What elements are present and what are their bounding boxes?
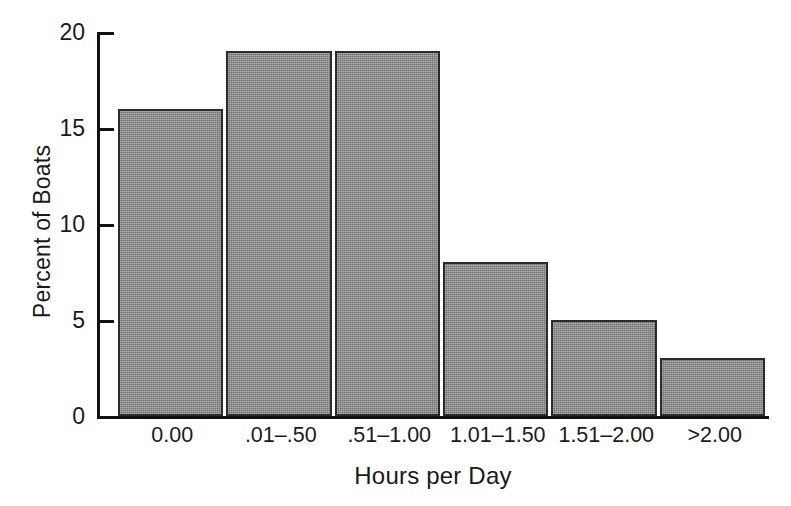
x-tick-label-2: .51–1.00 xyxy=(335,424,444,448)
y-tick-mark xyxy=(97,224,114,227)
y-tick-label: 10 xyxy=(59,213,85,236)
y-tick-label: 0 xyxy=(72,405,85,428)
y-tick-label: 15 xyxy=(59,117,85,140)
bar-2 xyxy=(335,51,440,416)
x-axis-line xyxy=(97,416,769,419)
bar-4 xyxy=(551,320,656,416)
y-tick-label: 5 xyxy=(72,309,85,332)
x-tick-label-1: .01–.50 xyxy=(227,424,336,448)
plot-area: 20 15 10 5 0 xyxy=(97,32,769,416)
bar-1 xyxy=(226,51,331,416)
bar-3 xyxy=(443,262,548,416)
y-tick-label: 20 xyxy=(59,21,85,44)
y-tick-mark xyxy=(97,128,114,131)
bar-chart: Percent of Boats 20 15 10 5 0 xyxy=(0,0,791,506)
y-tick-mark xyxy=(97,32,114,35)
x-tick-label-3: 1.01–1.50 xyxy=(444,424,553,448)
y-axis-title: Percent of Boats xyxy=(29,82,56,382)
x-tick-label-0: 0.00 xyxy=(118,424,227,448)
x-tick-label-5: >2.00 xyxy=(661,424,770,448)
x-axis-title: Hours per Day xyxy=(97,462,769,490)
x-tick-label-4: 1.51–2.00 xyxy=(552,424,661,448)
y-tick-mark xyxy=(97,320,114,323)
x-axis-tick-labels: 0.00 .01–.50 .51–1.00 1.01–1.50 1.51–2.0… xyxy=(118,424,769,454)
bars-layer xyxy=(118,32,768,416)
bar-5 xyxy=(660,358,765,416)
bar-0 xyxy=(118,109,223,416)
